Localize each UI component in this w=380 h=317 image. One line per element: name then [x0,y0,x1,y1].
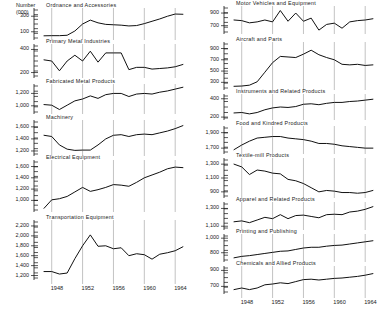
y-tick-label: 1,600 [0,253,29,258]
x-tick-label: 1948 [241,300,253,306]
data-series-line [44,235,183,274]
panel-plot [0,0,190,317]
chart-column-right: 700900Motor Vehicles and Equipment300500… [192,0,380,317]
x-tick-label: 1960 [143,286,155,292]
x-tick-label: 1956 [112,286,124,292]
panel-title: Chemicals and Allied Products [236,261,316,266]
chart-figure: Number (000) 100300Ordnance and Accessor… [0,0,380,317]
y-tick-label: 1,400 [0,263,29,268]
x-tick-label: 1948 [51,286,63,292]
panel-plot [192,0,380,317]
x-tick-label: 1964 [364,300,376,306]
y-tick-label: 2,000 [0,233,29,238]
data-series-line [234,274,373,290]
panel-title: Transportation Equipment [46,215,114,220]
chart-column-left: 100300Ordnance and Accessories200400Prim… [0,0,192,317]
x-tick-label: 1960 [333,300,345,306]
y-tick-label: 2,200 [0,223,29,228]
y-tick-label: 1,200 [0,273,29,278]
y-tick-label: 1,800 [0,243,29,248]
x-tick-label: 1952 [82,286,94,292]
x-tick-label: 1952 [272,300,284,306]
x-tick-label: 1956 [302,300,314,306]
y-tick-label: 900 [192,267,219,272]
chart-panel: 1,2001,4001,6001,8002,0002,200Transporta… [0,0,192,317]
y-tick-label: 700 [192,283,219,288]
chart-panel: 700900Chemicals and Allied Products19481… [192,0,380,317]
x-tick-label: 1964 [174,286,186,292]
